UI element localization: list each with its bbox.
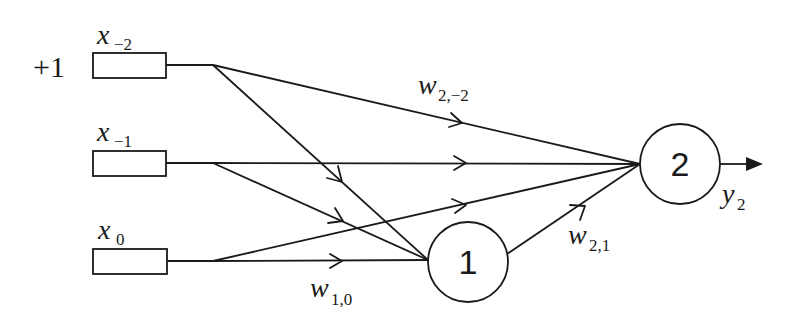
svg-text:0: 0 [116,230,125,249]
svg-text:w: w [418,69,437,100]
input-box-x-minus-2 [93,53,166,78]
input-label-x-minus-2: x −2 [96,19,132,54]
neural-network-diagram: +1 x −2 x −1 x 0 [0,0,796,325]
input-box-x-minus-1 [93,151,166,176]
svg-text:2,1: 2,1 [589,236,610,255]
node-2: 2 [640,124,720,204]
svg-text:w: w [568,219,587,250]
edge-x-minus-1-to-node-1 [213,163,428,260]
svg-text:1,0: 1,0 [331,290,352,309]
weight-label-w-2-1: w 2,1 [568,219,610,255]
input-label-x-minus-1: x −1 [96,116,132,151]
edge-x-minus-1-to-node-2 [213,163,640,164]
output-arrow-icon [746,157,763,171]
svg-text:2: 2 [737,195,746,214]
svg-text:−2: −2 [114,35,132,54]
svg-text:y: y [719,178,735,209]
background-text-bleed [0,2,796,20]
svg-text:2: 2 [671,145,690,183]
svg-text:w: w [310,272,329,303]
svg-text:x: x [96,116,110,147]
edge-x-0-to-node-1 [213,260,428,261]
node-1: 1 [428,222,508,302]
input-box-x-0 [93,249,167,274]
diagram-canvas: +1 x −2 x −1 x 0 [0,0,796,325]
output-label-y-2: y 2 [719,178,746,214]
svg-text:x: x [96,19,110,50]
weight-label-w-2-minus-2: w 2,−2 [418,69,469,105]
input-label-x-0: x 0 [97,214,125,249]
svg-text:2,−2: 2,−2 [438,86,469,105]
bias-label: +1 [33,50,65,83]
svg-text:1: 1 [459,243,478,281]
svg-text:−1: −1 [114,132,132,151]
svg-text:x: x [97,214,111,245]
weight-label-w-1-0: w 1,0 [310,272,352,309]
